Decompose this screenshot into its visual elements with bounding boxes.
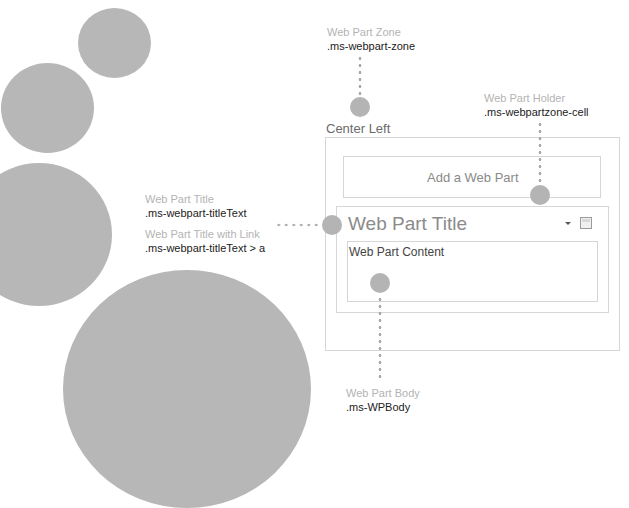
callout-body-marker	[370, 273, 390, 293]
callout-zone-marker	[350, 97, 370, 117]
decorative-circle-2	[1, 63, 94, 153]
add-web-part-button[interactable]: Add a Web Part	[343, 156, 601, 198]
callout-body-class: .ms-WPBody	[346, 401, 410, 413]
callout-title-link-class: .ms-webpart-titleText > a	[145, 242, 265, 254]
decorative-circle-3	[0, 163, 112, 306]
callout-holder-name: Web Part Holder	[484, 92, 565, 104]
decorative-circle-4	[63, 270, 311, 508]
add-web-part-label: Add a Web Part	[427, 170, 519, 185]
callout-holder-class: .ms-webpartzone-cell	[484, 106, 589, 118]
web-part-title[interactable]: Web Part Title	[348, 213, 467, 235]
callout-zone-connector	[358, 55, 362, 95]
callout-zone-class: .ms-webpart-zone	[327, 40, 415, 52]
callout-zone-name: Web Part Zone	[327, 26, 401, 38]
zone-title: Center Left	[326, 121, 390, 136]
callout-holder-marker	[530, 185, 550, 205]
dropdown-arrow-icon[interactable]	[565, 222, 571, 225]
callout-title-class: .ms-webpart-titleText	[145, 207, 246, 219]
callout-body-connector	[378, 296, 382, 382]
callout-title-marker	[322, 215, 342, 235]
checkbox-icon[interactable]	[580, 217, 592, 229]
web-part-content: Web Part Content	[349, 245, 444, 259]
callout-title-name: Web Part Title	[145, 193, 214, 205]
decorative-circle-1	[78, 8, 151, 78]
callout-holder-connector	[538, 121, 542, 185]
callout-body-name: Web Part Body	[346, 387, 420, 399]
callout-title-connector	[275, 223, 321, 227]
callout-title-link-name: Web Part Title with Link	[145, 228, 260, 240]
